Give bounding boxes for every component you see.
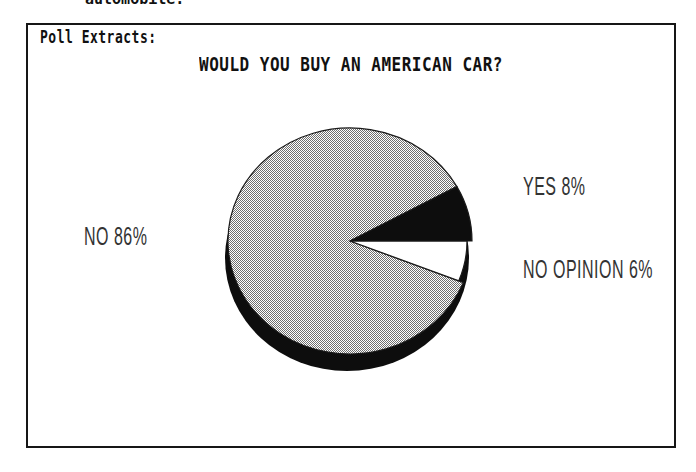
slice-label-no: NO 86% bbox=[84, 224, 147, 250]
pie-slices-group bbox=[225, 128, 472, 371]
slice-label-no-opinion: NO OPINION 6% bbox=[523, 257, 653, 283]
scanned-page: { "context": { "clipped_text_above": "au… bbox=[0, 0, 696, 472]
slice-label-yes: YES 8% bbox=[523, 174, 586, 200]
